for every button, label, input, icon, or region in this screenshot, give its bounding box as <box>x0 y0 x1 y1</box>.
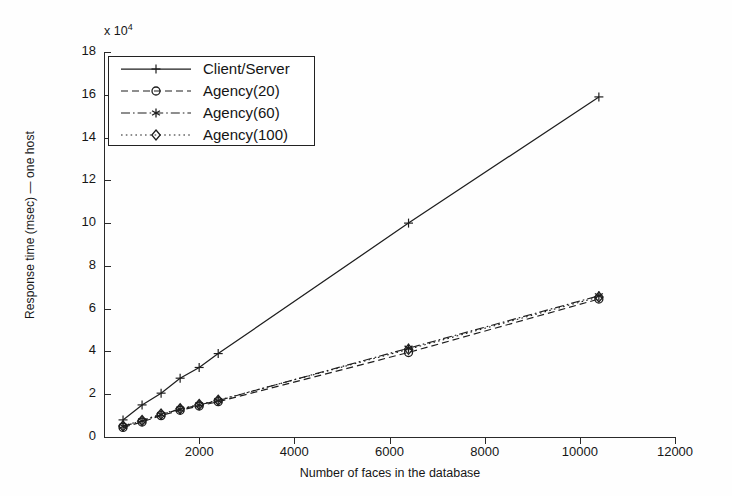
y-tick-label: 18 <box>56 43 96 58</box>
legend-row: Agency(100) <box>109 125 314 145</box>
x-tick-label: 6000 <box>360 444 420 459</box>
legend-label-client-server: Client/Server <box>203 60 290 77</box>
legend-sample-agency-20 <box>119 81 197 101</box>
y-axis-multiplier: x 104 <box>104 22 133 38</box>
data-point-plus <box>214 349 223 358</box>
series-agency-60 <box>119 291 603 431</box>
legend-line-sample <box>119 125 197 145</box>
y-tick-label: 12 <box>56 171 96 186</box>
y-tick <box>104 437 111 438</box>
legend-row: Agency(60) <box>109 103 314 123</box>
multiplier-exponent: 4 <box>128 22 133 32</box>
y-tick-label: 10 <box>56 214 96 229</box>
legend-sample-agency-60 <box>119 103 197 123</box>
y-tick-label: 8 <box>56 257 96 272</box>
legend-line-sample <box>119 81 197 101</box>
legend-sample-client-server <box>119 59 197 79</box>
series-line <box>123 299 599 427</box>
data-point-plus <box>404 219 413 228</box>
x-tick-label: 2000 <box>169 444 229 459</box>
legend-label-agency-60: Agency(60) <box>203 104 280 121</box>
x-tick <box>390 437 391 444</box>
x-tick <box>485 437 486 444</box>
x-tick-label: 10000 <box>550 444 610 459</box>
y-tick-label: 0 <box>56 428 96 443</box>
x-tick <box>199 437 200 444</box>
data-point-plus <box>195 363 204 372</box>
x-tick <box>580 437 581 444</box>
legend-row: Client/Server <box>109 59 314 79</box>
legend-row: Agency(20) <box>109 81 314 101</box>
chart-figure: x 104 024681012141618 200040006000800010… <box>0 0 732 496</box>
data-point-plus <box>594 92 603 101</box>
y-axis-label: Response time (msec) — one host <box>23 45 37 405</box>
x-tick-label: 4000 <box>264 444 324 459</box>
y-tick-label: 4 <box>56 342 96 357</box>
x-tick-label: 8000 <box>455 444 515 459</box>
chart-legend: Client/Server Agency(20) Agency(60) Agen… <box>108 56 315 146</box>
legend-line-sample <box>119 103 197 123</box>
x-axis-label: Number of faces in the database <box>104 466 676 480</box>
y-tick-label: 16 <box>56 86 96 101</box>
series-agency-20 <box>119 295 603 431</box>
y-tick-label: 6 <box>56 300 96 315</box>
x-tick <box>294 437 295 444</box>
y-tick-label: 2 <box>56 385 96 400</box>
series-line <box>123 296 599 427</box>
y-tick-label: 14 <box>56 129 96 144</box>
data-point-plus <box>152 65 161 74</box>
legend-sample-agency-100 <box>119 125 197 145</box>
x-tick-label: 12000 <box>645 444 705 459</box>
x-tick <box>675 437 676 444</box>
multiplier-base: x 10 <box>104 24 128 38</box>
legend-line-sample <box>119 59 197 79</box>
series-agency-100 <box>119 292 603 431</box>
legend-label-agency-100: Agency(100) <box>203 126 288 143</box>
legend-label-agency-20: Agency(20) <box>203 82 280 99</box>
